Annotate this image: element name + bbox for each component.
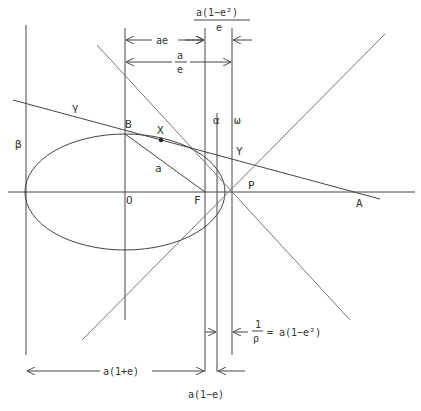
label-a-point: A bbox=[356, 197, 363, 210]
label-a-segment: a bbox=[155, 162, 162, 175]
label-b: B bbox=[125, 118, 132, 131]
dim-rho-den: ρ bbox=[253, 333, 259, 344]
label-y: Y bbox=[236, 145, 243, 158]
dim-a-one-plus-e-label: a(1+e) bbox=[103, 366, 139, 377]
label-gamma: γ bbox=[72, 101, 79, 114]
dim-rho-num: 1 bbox=[255, 319, 261, 330]
label-p: P bbox=[248, 179, 255, 192]
diagonal-falling bbox=[97, 45, 350, 320]
label-alpha: α bbox=[213, 114, 220, 127]
segment-a bbox=[125, 134, 205, 192]
label-x: X bbox=[157, 124, 164, 137]
dim-a-over-e-den: e bbox=[177, 64, 183, 75]
dim-a-one-minus-e-label: a(1−e) bbox=[188, 389, 224, 400]
dim-top-num: a(1−e²) bbox=[196, 7, 238, 18]
label-f: F bbox=[194, 194, 201, 207]
dim-rho-rhs: = a(1−e²) bbox=[267, 327, 321, 338]
dim-ae-label: ae bbox=[156, 35, 168, 46]
diagram-canvas: ae a e a(1−e²) e 1 ρ = a(1−e²) a(1+e) a(… bbox=[0, 0, 421, 411]
diagonal-rising bbox=[82, 34, 385, 340]
label-o: O bbox=[126, 194, 133, 207]
point-x-dot bbox=[159, 138, 163, 142]
dim-a-over-e-num: a bbox=[177, 50, 183, 61]
dim-top-den: e bbox=[216, 22, 222, 33]
label-beta: β bbox=[15, 138, 22, 151]
label-omega: ω bbox=[234, 114, 241, 127]
tangent-gamma bbox=[13, 100, 380, 199]
